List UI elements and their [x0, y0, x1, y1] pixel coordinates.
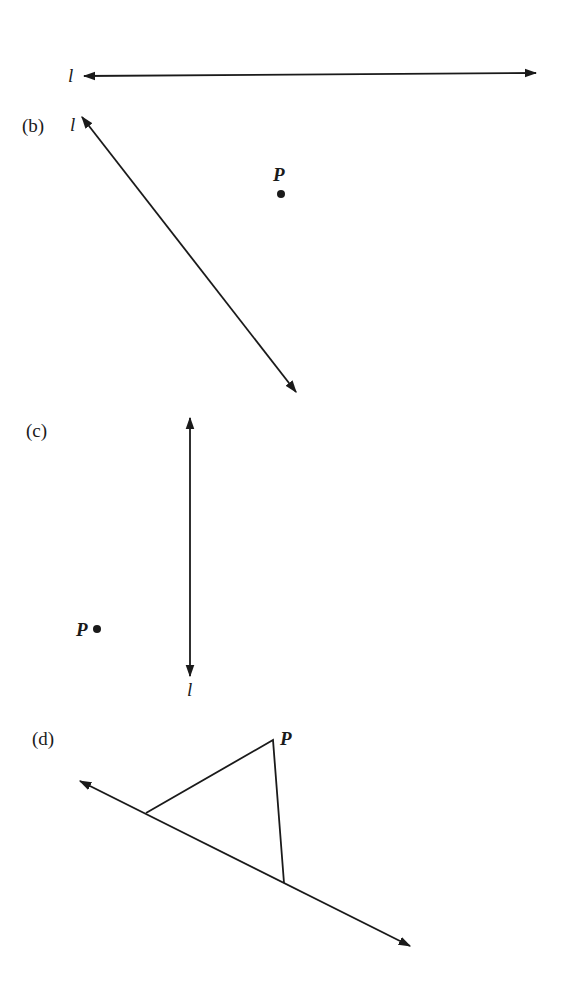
line-label-l: l — [187, 679, 192, 700]
point-label-p: P — [272, 164, 285, 185]
point-label-p: P — [75, 619, 88, 640]
panel-c: (c) l P — [26, 418, 192, 700]
triangle-sides — [146, 740, 284, 883]
geometry-figure: l (b) l P (c) l P (d) P — [0, 0, 561, 984]
panel-d: (d) P — [32, 728, 410, 946]
panel-label-b: (b) — [22, 115, 44, 137]
line-label-l: l — [68, 65, 73, 86]
point-label-p: P — [279, 728, 292, 749]
point-p — [93, 625, 101, 633]
point-p — [277, 190, 285, 198]
panel-a: l — [68, 65, 536, 86]
line-l — [80, 781, 410, 946]
panel-label-c: (c) — [26, 420, 47, 442]
line-l — [82, 117, 296, 392]
panel-b: (b) l P — [22, 114, 296, 392]
line-label-l: l — [70, 114, 75, 135]
line-l — [84, 73, 536, 76]
panel-label-d: (d) — [32, 728, 54, 750]
